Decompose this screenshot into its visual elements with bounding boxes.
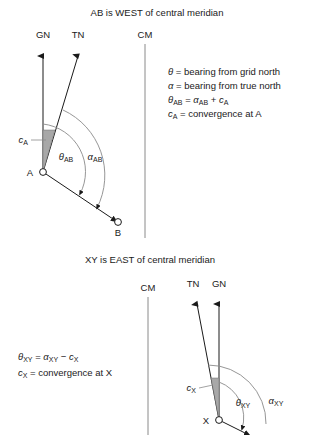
convergence-label-west: cA	[19, 134, 29, 146]
convergence-wedge-east	[211, 378, 219, 420]
true-north-label-east: TN	[187, 278, 200, 289]
legend-line-theta-formula: θAB = αAB + cA	[168, 94, 229, 106]
convergence-subscript-west: A	[23, 139, 28, 146]
east-panel-title: XY is EAST of central meridian	[85, 254, 215, 265]
convergence-wedge-west	[43, 130, 55, 172]
xy-ray	[219, 420, 249, 435]
station-b-label: B	[115, 227, 121, 238]
central-meridian-label-east: CM	[141, 282, 156, 293]
diagram-canvas: AB is WEST of central meridian CM GN TN …	[0, 0, 314, 435]
legend-line-convergence-x: cX = convergence at X	[18, 367, 113, 379]
alpha-ab-label: αAB	[88, 151, 103, 163]
grid-north-label-east: GN	[212, 278, 226, 289]
station-x-node	[216, 417, 223, 424]
convergence-subscript-east: X	[191, 387, 196, 394]
alpha-ab-subscript: AB	[93, 156, 103, 163]
legend-line-alpha: α = bearing from true north	[168, 80, 281, 91]
legend-line-theta: θ = bearing from grid north	[168, 66, 280, 77]
legend-line-theta-xy-formula: θXY = αXY − cX	[18, 351, 79, 363]
alpha-xy-label: αXY	[269, 395, 284, 407]
theta-xy-label: θXY	[236, 397, 251, 409]
theta-xy-subscript: XY	[241, 402, 251, 409]
theta-ab-label: θAB	[59, 151, 74, 163]
legend-line-convergence: cA = convergence at A	[168, 108, 262, 120]
station-b-node	[115, 219, 122, 226]
surveying-convergence-figure: AB is WEST of central meridian CM GN TN …	[0, 0, 314, 435]
true-north-label-west: TN	[72, 29, 85, 40]
station-a-label: A	[27, 167, 34, 178]
alpha-xy-subscript: XY	[274, 400, 284, 407]
central-meridian-label-west: CM	[138, 29, 153, 40]
station-x-label: X	[203, 415, 210, 426]
station-a-node	[40, 169, 47, 176]
west-panel-title: AB is WEST of central meridian	[91, 7, 224, 18]
theta-ab-subscript: AB	[64, 156, 74, 163]
convergence-label-east: cX	[187, 382, 197, 394]
grid-north-label-west: GN	[36, 29, 50, 40]
convergence-leader-east	[199, 385, 213, 388]
